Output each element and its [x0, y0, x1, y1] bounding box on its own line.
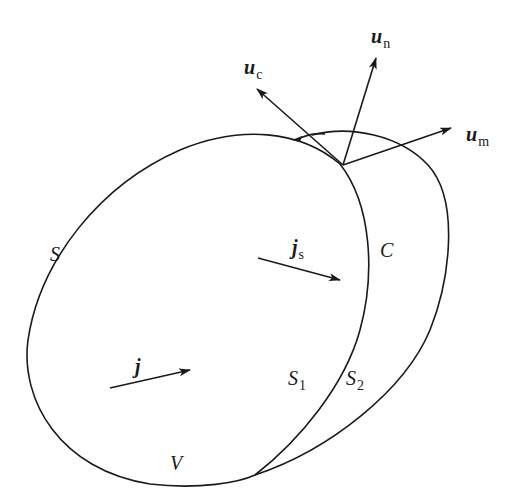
label-s: S: [50, 244, 60, 264]
vector-u-n: [343, 58, 376, 165]
label-u-m: um: [466, 124, 489, 144]
label-j-s: js: [292, 237, 304, 257]
vector-u-c: [257, 89, 343, 165]
label-u-n: un: [371, 26, 390, 46]
vector-u-m: [343, 128, 451, 165]
label-u-c: uc: [244, 57, 262, 77]
label-c: C: [380, 240, 393, 260]
vector-j: [110, 370, 190, 388]
label-v: V: [170, 453, 182, 473]
label-s1: S1: [288, 368, 306, 388]
label-j: j: [135, 356, 141, 376]
surface-s1-outline: [27, 134, 369, 486]
label-s2: S2: [346, 368, 364, 388]
diagram-canvas: uc un um S C js j S1 S2 V: [0, 0, 518, 504]
